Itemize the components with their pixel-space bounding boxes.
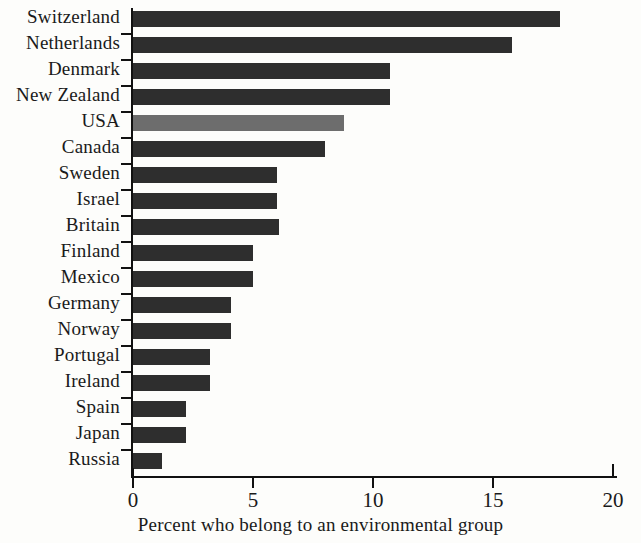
category-label-canada: Canada	[62, 137, 120, 157]
y-axis-tick	[121, 423, 132, 425]
y-axis-tick	[121, 189, 132, 191]
bar-chart: SwitzerlandNetherlandsDenmarkNew Zealand…	[0, 0, 641, 543]
y-axis-tick	[121, 319, 132, 321]
y-axis-tick	[121, 371, 132, 373]
bar-row	[133, 372, 615, 398]
y-axis-tick	[121, 293, 132, 295]
plot-area	[133, 8, 615, 476]
category-label-new-zealand: New Zealand	[16, 85, 120, 105]
bar-row	[133, 164, 615, 190]
y-axis-tick	[121, 85, 132, 87]
bar-row	[133, 320, 615, 346]
bar-row	[133, 294, 615, 320]
y-axis-tick	[121, 33, 132, 35]
y-axis-tick	[121, 59, 132, 61]
bar-row	[133, 190, 615, 216]
bar-row	[133, 138, 615, 164]
bar-row	[133, 86, 615, 112]
bar-japan	[133, 427, 186, 443]
y-axis-tick	[121, 345, 132, 347]
category-label-spain: Spain	[76, 397, 120, 417]
y-axis-tick	[121, 449, 132, 451]
x-axis-tick	[252, 478, 254, 488]
x-axis-tick-label: 0	[128, 488, 139, 512]
bar-ireland	[133, 375, 210, 391]
y-axis-tick	[121, 267, 132, 269]
bar-portugal	[133, 349, 210, 365]
category-label-portugal: Portugal	[54, 345, 120, 365]
category-label-israel: Israel	[77, 189, 120, 209]
bar-row	[133, 242, 615, 268]
y-axis-tick	[121, 215, 132, 217]
category-label-switzerland: Switzerland	[27, 7, 120, 27]
category-axis-labels: SwitzerlandNetherlandsDenmarkNew Zealand…	[0, 8, 120, 476]
bar-row	[133, 8, 615, 34]
category-label-ireland: Ireland	[65, 371, 120, 391]
x-axis-tick-label: 20	[603, 488, 624, 512]
bar-denmark	[133, 63, 390, 79]
category-label-germany: Germany	[48, 293, 120, 313]
category-label-netherlands: Netherlands	[26, 33, 120, 53]
category-label-denmark: Denmark	[48, 59, 120, 79]
category-label-finland: Finland	[61, 241, 120, 261]
x-axis-tick-label: 15	[483, 488, 504, 512]
bar-norway	[133, 323, 231, 339]
bar-netherlands	[133, 37, 512, 53]
bar-switzerland	[133, 11, 560, 27]
bar-row	[133, 398, 615, 424]
bar-row	[133, 268, 615, 294]
y-axis-tick	[121, 137, 132, 139]
bar-canada	[133, 141, 325, 157]
bar-russia	[133, 453, 162, 469]
x-axis-tick	[612, 464, 614, 478]
category-label-mexico: Mexico	[61, 267, 120, 287]
category-label-sweden: Sweden	[59, 163, 120, 183]
bar-row	[133, 216, 615, 242]
y-axis-tick	[121, 163, 132, 165]
bar-row	[133, 424, 615, 450]
bar-row	[133, 60, 615, 86]
y-axis-tick	[121, 241, 132, 243]
category-label-britain: Britain	[66, 215, 120, 235]
x-axis-tick	[372, 478, 374, 488]
x-axis-tick-label: 10	[363, 488, 384, 512]
bar-row	[133, 346, 615, 372]
bar-row	[133, 450, 615, 476]
x-axis-tick	[492, 478, 494, 488]
category-label-japan: Japan	[76, 423, 120, 443]
bar-usa	[133, 115, 344, 131]
x-axis-line	[131, 476, 617, 478]
y-axis-tick	[121, 397, 132, 399]
bar-spain	[133, 401, 186, 417]
bar-mexico	[133, 271, 253, 287]
bar-row	[133, 34, 615, 60]
x-axis-tick-label: 5	[248, 488, 259, 512]
bar-germany	[133, 297, 231, 313]
x-axis-tick	[132, 468, 134, 488]
bar-sweden	[133, 167, 277, 183]
bar-britain	[133, 219, 279, 235]
category-label-norway: Norway	[58, 319, 120, 339]
category-label-russia: Russia	[68, 449, 120, 469]
bar-finland	[133, 245, 253, 261]
category-label-usa: USA	[81, 111, 120, 131]
x-axis-title: Percent who belong to an environmental g…	[0, 514, 641, 536]
bar-new-zealand	[133, 89, 390, 105]
bar-row	[133, 112, 615, 138]
bar-israel	[133, 193, 277, 209]
y-axis-tick	[121, 111, 132, 113]
